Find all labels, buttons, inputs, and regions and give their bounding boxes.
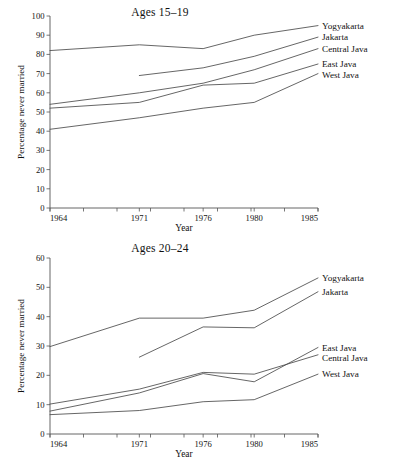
y-tick-label: 20 [36, 370, 45, 380]
y-tick-label: 40 [36, 126, 45, 136]
x-axis-title: Year [175, 223, 193, 233]
x-tick-label: 1964 [50, 439, 68, 449]
series-label-west-java: West Java [322, 70, 359, 80]
x-tick-label: 1976 [195, 213, 213, 223]
series-label-central-java: Central Java [322, 44, 368, 54]
y-axis-title: Percentage never married [16, 299, 26, 393]
series-label-east-java: East Java [322, 343, 356, 353]
y-tick-label: 10 [36, 184, 45, 194]
series-line-jakarta [139, 292, 318, 357]
x-tick-label: 1980 [246, 213, 263, 223]
y-tick-label: 20 [36, 165, 45, 175]
series-label-yogyakarta: Yogyakarta [322, 21, 364, 31]
y-tick-label: 80 [36, 49, 45, 59]
x-tick-label: 1964 [50, 213, 68, 223]
y-tick-label: 70 [36, 69, 45, 79]
series-label-jakarta: Jakarta [322, 32, 348, 42]
series-line-west-java [50, 74, 318, 130]
y-tick-label: 0 [40, 429, 44, 439]
series-label-yogyakarta: Yogyakarta [322, 273, 364, 283]
y-tick-label: 40 [36, 312, 45, 322]
series-line-east-java [50, 347, 318, 411]
x-tick-label: 1971 [131, 213, 148, 223]
figure-page: Ages 15–19 01020304050607080901001964197… [0, 0, 396, 473]
series-label-central-java: Central Java [322, 353, 368, 363]
series-label-east-java: East Java [322, 59, 356, 69]
y-tick-label: 50 [36, 107, 45, 117]
series-line-jakarta [139, 37, 318, 75]
y-tick-label: 60 [36, 253, 45, 263]
x-tick-label: 1980 [246, 439, 263, 449]
x-tick-label: 1976 [195, 439, 213, 449]
chart-panel-ages-20-24: Ages 20–24 01020304050601964197119761980… [0, 236, 396, 473]
series-line-yogyakarta [50, 26, 318, 51]
x-tick-label: 1971 [131, 439, 148, 449]
y-tick-label: 90 [36, 30, 45, 40]
y-tick-label: 100 [32, 11, 45, 21]
x-axis-title: Year [175, 449, 193, 459]
series-label-west-java: West Java [322, 369, 359, 379]
y-tick-label: 50 [36, 282, 45, 292]
y-tick-label: 30 [36, 145, 45, 155]
series-line-west-java [50, 374, 318, 414]
series-label-jakarta: Jakarta [322, 287, 348, 297]
y-tick-label: 60 [36, 88, 45, 98]
y-tick-label: 0 [40, 203, 44, 213]
y-tick-label: 30 [36, 341, 45, 351]
x-tick-label: 1985 [301, 213, 318, 223]
line-chart-ages-15-19: 0102030405060708090100196419711976198019… [0, 0, 396, 236]
y-tick-label: 10 [36, 400, 45, 410]
line-chart-ages-20-24: 010203040506019641971197619801985YearPer… [0, 236, 396, 473]
y-axis-title: Percentage never married [16, 65, 26, 159]
x-tick-label: 1985 [301, 439, 318, 449]
chart-panel-ages-15-19: Ages 15–19 01020304050607080901001964197… [0, 0, 396, 236]
